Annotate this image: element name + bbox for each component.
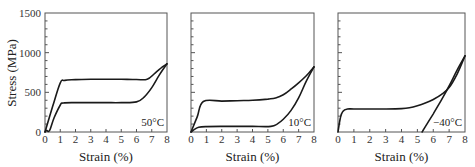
x-tick-label: 1 [58,133,64,145]
x-tick-label: 7 [149,133,155,145]
y-tick-label: 1500 [19,7,42,19]
x-tick-label: 5 [119,133,125,145]
y-tick-label: 1000 [19,47,42,59]
x-tick-label: 3 [383,133,389,145]
plot-frame [338,13,465,132]
x-tick-label: 4 [103,133,109,145]
x-axis-title: Strain (%) [375,149,429,164]
temperature-label: −40°C [433,116,462,128]
x-tick-label: 5 [265,133,271,145]
x-tick-label: 6 [134,133,140,145]
y-tick-label: 0 [36,126,42,138]
panel-10c: 012345678Strain (%)10°C [188,13,317,164]
x-axis-title: Strain (%) [79,149,133,164]
plot-frame [191,13,314,132]
panel-50c: 012345678Strain (%)50°C [42,13,170,164]
x-tick-label: 7 [296,133,302,145]
x-tick-label: 6 [281,133,287,145]
x-tick-label: 1 [204,133,210,145]
x-tick-label: 7 [446,133,452,145]
x-axis-title: Strain (%) [226,149,280,164]
y-tick-labels: 050010001500 [19,7,42,138]
x-tick-label: 2 [367,133,373,145]
x-tick-label: 3 [234,133,240,145]
x-tick-label: 2 [73,133,79,145]
panel-minus40c: 012345678Strain (%)−40°C [335,13,468,164]
plot-frame [45,13,167,132]
y-axis-title: Stress (MPa) [4,39,19,107]
x-tick-label: 2 [219,133,225,145]
x-tick-label: 3 [88,133,94,145]
x-tick-label: 0 [188,133,194,145]
temperature-label: 10°C [288,116,311,128]
y-tick-label: 500 [25,86,42,98]
x-tick-label: 8 [462,133,468,145]
x-tick-label: 1 [351,133,357,145]
x-tick-label: 8 [164,133,170,145]
stress-strain-figure: Stress (MPa) 050010001500 012345678Strai… [0,0,475,167]
temperature-label: 50°C [141,116,164,128]
x-tick-label: 4 [250,133,256,145]
x-tick-label: 8 [311,133,317,145]
x-tick-label: 6 [431,133,437,145]
x-tick-label: 4 [399,133,405,145]
x-tick-label: 0 [42,133,48,145]
x-tick-label: 5 [415,133,421,145]
x-tick-label: 0 [335,133,341,145]
